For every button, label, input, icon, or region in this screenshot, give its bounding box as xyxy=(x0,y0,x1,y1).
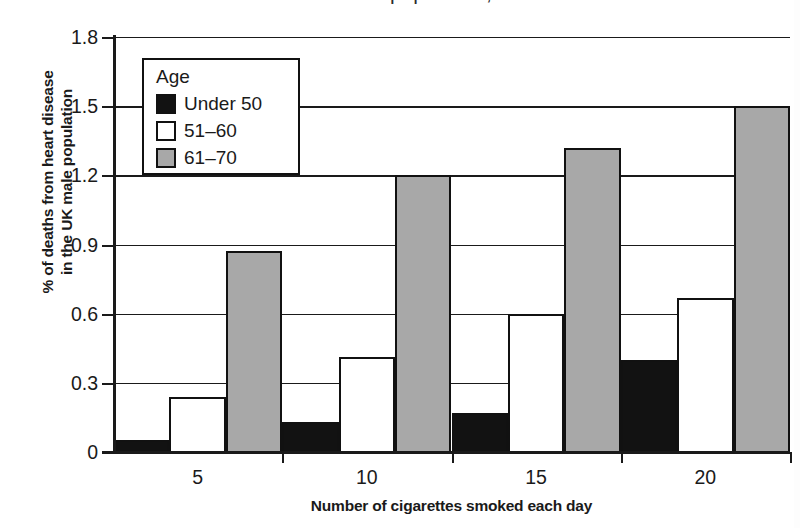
y-axis-title-line1: % of deaths from heart disease xyxy=(38,32,57,332)
legend-label: Under 50 xyxy=(184,93,262,115)
x-tick-label: 15 xyxy=(525,466,547,489)
y-tick-mark xyxy=(102,452,113,454)
y-tick-label: 0.3 xyxy=(71,371,98,394)
bar-10-51–60 xyxy=(339,357,395,453)
bar-chart-figure: % of deaths from heart disease in the UK… xyxy=(0,0,800,528)
gridline xyxy=(113,175,790,176)
gridline xyxy=(113,245,790,246)
bar-10-under-50 xyxy=(282,422,338,453)
bar-5-61–70 xyxy=(226,251,282,453)
legend-rows: Under 5051–6061–70 xyxy=(156,90,298,171)
bar-20-51–60 xyxy=(677,298,733,453)
legend: Age Under 5051–6061–70 xyxy=(142,58,300,175)
scan-edge xyxy=(794,0,800,528)
legend-item-51–60: 51–60 xyxy=(156,117,298,144)
legend-swatch xyxy=(156,121,176,141)
bar-5-51–60 xyxy=(169,397,225,453)
legend-label: 51–60 xyxy=(184,120,237,142)
y-tick-mark xyxy=(102,314,113,316)
bar-20-under-50 xyxy=(621,360,677,453)
bar-15-51–60 xyxy=(508,314,564,453)
y-tick-label: 1.2 xyxy=(71,164,98,187)
legend-label: 61–70 xyxy=(184,147,237,169)
y-tick-label: 1.8 xyxy=(71,26,98,49)
bar-20-61–70 xyxy=(734,106,790,453)
legend-item-61–70: 61–70 xyxy=(156,144,298,171)
x-tick-label: 5 xyxy=(192,466,203,489)
y-tick-mark xyxy=(102,175,113,177)
bar-10-61–70 xyxy=(395,175,451,453)
gridline xyxy=(113,37,790,38)
legend-item-under-50: Under 50 xyxy=(156,90,298,117)
y-tick-label: 0 xyxy=(87,441,98,464)
x-axis-title: Number of cigarettes smoked each day xyxy=(113,497,790,515)
y-tick-mark xyxy=(102,106,113,108)
x-tick-mark xyxy=(452,452,454,463)
legend-swatch xyxy=(156,94,176,114)
y-tick-mark xyxy=(102,245,113,247)
y-tick-mark xyxy=(102,383,113,385)
legend-title: Age xyxy=(156,65,298,89)
bar-15-under-50 xyxy=(452,413,508,453)
bar-15-61–70 xyxy=(564,148,620,453)
legend-swatch xyxy=(156,148,176,168)
x-tick-mark xyxy=(282,452,284,463)
y-tick-label: 0.6 xyxy=(71,302,98,325)
x-tick-mark xyxy=(790,452,792,463)
x-axis-spine xyxy=(102,451,790,454)
y-tick-label: 1.5 xyxy=(71,95,98,118)
y-tick-label: 0.9 xyxy=(71,233,98,256)
x-tick-label: 10 xyxy=(356,466,378,489)
y-axis-spine xyxy=(113,35,116,454)
y-tick-mark xyxy=(102,37,113,39)
x-tick-mark xyxy=(621,452,623,463)
x-tick-label: 20 xyxy=(695,466,717,489)
